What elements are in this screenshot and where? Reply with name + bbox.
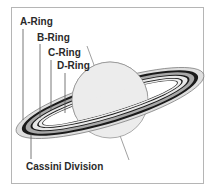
c-ring-label: C-Ring bbox=[48, 48, 81, 58]
d-ring-label: D-Ring bbox=[57, 61, 90, 71]
cassini-division-label: Cassini Division bbox=[26, 162, 103, 172]
b-ring-label: B-Ring bbox=[37, 33, 70, 43]
a-ring-label: A-Ring bbox=[20, 17, 53, 27]
